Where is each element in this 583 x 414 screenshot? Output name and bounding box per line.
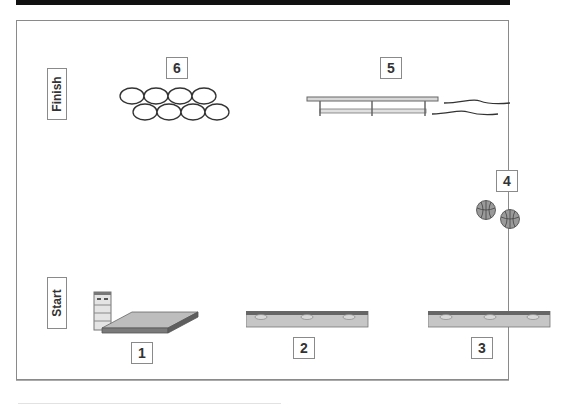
finish-label-text: Finish: [50, 76, 64, 111]
mat-icon: [100, 311, 200, 335]
basketballs-icon: [476, 199, 524, 231]
start-label: Start: [47, 277, 67, 329]
station-6-number: 6: [166, 57, 188, 79]
balance-bench-3-icon: [428, 311, 552, 329]
ropes-icon: [432, 98, 512, 120]
finish-label: Finish: [47, 68, 67, 120]
top-black-bar: [16, 0, 510, 5]
bottom-divider: [18, 403, 281, 404]
station-5-number: 5: [380, 57, 402, 79]
hoops-icon: [118, 86, 238, 126]
station-4-number: 4: [496, 170, 518, 192]
station-3-number: 3: [471, 337, 493, 359]
bench-icon: [306, 96, 441, 120]
station-2-number: 2: [293, 337, 315, 359]
station-1-number: 1: [131, 342, 153, 364]
balance-bench-2-icon: [246, 311, 370, 329]
start-label-text: Start: [50, 289, 64, 316]
